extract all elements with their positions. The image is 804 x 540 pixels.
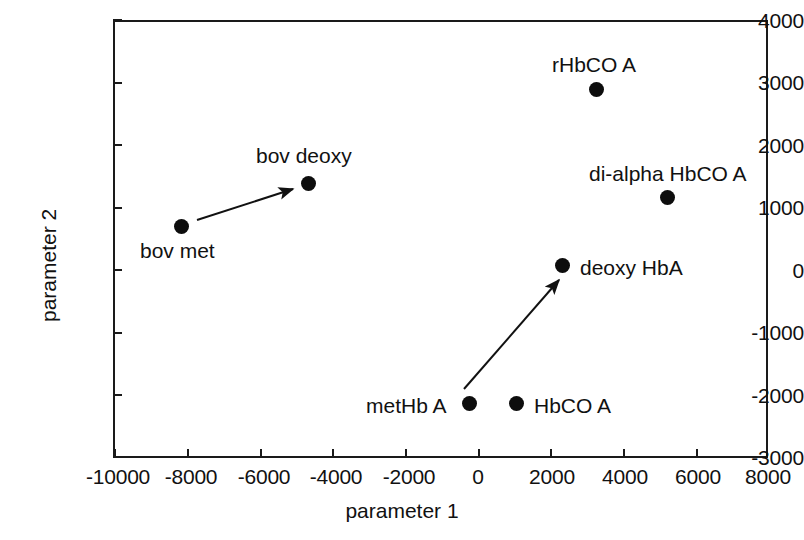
y-tick-label-3000: 3000 — [699, 72, 804, 93]
x-tick-minus-8000 — [187, 449, 189, 458]
y-tick-label-minus-2000: -2000 — [699, 385, 804, 406]
x-tick-label-minus-2000: -2000 — [383, 466, 436, 487]
x-tick-4000 — [623, 449, 625, 458]
point-label-bov-met: bov met — [140, 240, 215, 261]
x-tick-minus-6000 — [260, 449, 262, 458]
x-tick-2000 — [550, 449, 552, 458]
y-tick-0 — [113, 269, 122, 271]
y-tick-minus-1000 — [113, 332, 122, 334]
data-point-methb-a[interactable] — [462, 396, 477, 411]
point-label-di-alpha-hbco-a: di-alpha HbCO A — [589, 163, 747, 184]
x-tick-minus-2000 — [405, 449, 407, 458]
x-tick-6000 — [696, 449, 698, 458]
data-point-deoxy-hba[interactable] — [555, 258, 570, 273]
data-point-bov-met[interactable] — [174, 219, 189, 234]
x-axis-title: parameter 1 — [0, 500, 804, 521]
y-tick-1000 — [113, 207, 122, 209]
x-tick-minus-10000 — [114, 449, 116, 458]
x-tick-label-4000: 4000 — [602, 466, 648, 487]
x-tick-label-minus-10000: -10000 — [86, 466, 150, 487]
x-tick-0 — [478, 449, 480, 458]
y-tick-2000 — [113, 144, 122, 146]
point-label-methb-a: metHb A — [366, 395, 447, 416]
y-tick-label-4000: 4000 — [699, 10, 804, 31]
y-tick-4000 — [113, 19, 122, 21]
scatter-plot-figure: 4000 3000 2000 1000 0 -1000 -2000 -3000 … — [0, 0, 804, 540]
point-label-deoxy-hba: deoxy HbA — [580, 257, 683, 278]
data-point-di-alpha-hbco-a[interactable] — [660, 190, 675, 205]
point-label-bov-deoxy: bov deoxy — [256, 145, 352, 166]
y-tick-label-0: 0 — [699, 260, 804, 281]
y-tick-label-minus-1000: -1000 — [699, 322, 804, 343]
x-tick-label-minus-4000: -4000 — [310, 466, 363, 487]
point-label-hbco-a: HbCO A — [534, 395, 611, 416]
y-tick-label-1000: 1000 — [699, 197, 804, 218]
data-point-bov-deoxy[interactable] — [301, 176, 316, 191]
point-label-rhbco-a: rHbCO A — [552, 54, 636, 75]
x-tick-label-minus-8000: -8000 — [165, 466, 218, 487]
y-tick-label-2000: 2000 — [699, 135, 804, 156]
y-tick-3000 — [113, 82, 122, 84]
data-point-hbco-a[interactable] — [509, 396, 524, 411]
x-tick-minus-4000 — [332, 449, 334, 458]
y-axis-title: parameter 2 — [38, 209, 59, 322]
x-tick-label-minus-6000: -6000 — [238, 466, 291, 487]
x-tick-label-0: 0 — [472, 466, 483, 487]
x-tick-label-8000: 8000 — [745, 466, 791, 487]
data-point-rhbco-a[interactable] — [589, 82, 604, 97]
x-tick-label-2000: 2000 — [529, 466, 575, 487]
y-tick-minus-2000 — [113, 394, 122, 396]
x-tick-label-6000: 6000 — [675, 466, 721, 487]
